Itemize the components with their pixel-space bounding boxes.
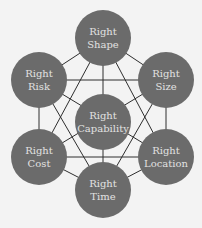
node-risk-line1: Right: [25, 68, 53, 79]
node-shape: Right Shape: [75, 10, 131, 66]
node-capability-line1: Right: [89, 110, 117, 121]
node-shape-line1: Right: [89, 26, 117, 37]
node-location-line2: Location: [144, 158, 188, 169]
node-location-line1: Right: [152, 145, 180, 156]
node-capability-line2: Capability: [77, 123, 129, 134]
node-location: Right Location: [138, 129, 194, 185]
node-shape-line2: Shape: [87, 39, 119, 50]
node-time: Right Time: [75, 162, 131, 218]
node-size-line1: Right: [152, 68, 180, 79]
node-time-line1: Right: [89, 178, 117, 189]
node-size: Right Size: [138, 52, 194, 108]
node-time-line2: Time: [90, 191, 115, 202]
node-risk: Right Risk: [11, 52, 67, 108]
node-cost-line2: Cost: [28, 158, 51, 169]
node-capability: Right Capability: [75, 94, 131, 150]
node-cost: Right Cost: [11, 129, 67, 185]
node-cost-line1: Right: [25, 145, 53, 156]
node-risk-line2: Risk: [28, 81, 51, 92]
node-size-line2: Size: [155, 81, 176, 92]
seven-rights-diagram: Right Shape Right Risk Right Size Right …: [0, 0, 202, 228]
